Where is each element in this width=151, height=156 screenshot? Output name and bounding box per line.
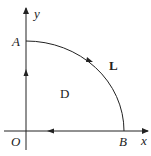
diagram-canvas: y x O A B L D xyxy=(0,0,151,156)
curve-L-arc xyxy=(26,41,124,131)
origin-label: O xyxy=(11,134,21,149)
region-D-label: D xyxy=(60,86,69,101)
point-B-label: B xyxy=(119,134,127,149)
y-axis-direction-arrow-icon xyxy=(24,69,29,76)
y-axis-label: y xyxy=(32,6,40,21)
curve-L-label: L xyxy=(109,58,118,73)
arc-direction-arrow-icon xyxy=(86,57,93,62)
x-axis-direction-arrow-icon xyxy=(47,129,54,134)
x-axis-label: x xyxy=(140,133,147,148)
point-A-label: A xyxy=(11,34,20,49)
